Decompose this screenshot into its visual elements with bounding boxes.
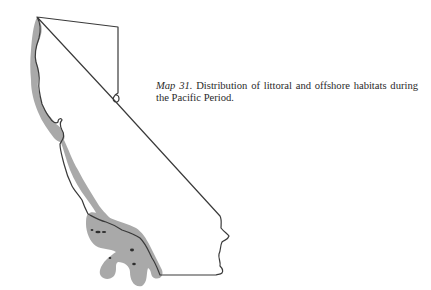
figure-caption: Map 31. Distribution of littoral and off… <box>156 80 418 103</box>
california-habitat-map <box>0 0 431 290</box>
figure-page: Map 31. Distribution of littoral and off… <box>0 0 431 290</box>
habitat-shading <box>30 17 162 286</box>
caption-text: Distribution of littoral and offshore ha… <box>156 80 418 103</box>
caption-label: Map 31. <box>156 80 192 91</box>
